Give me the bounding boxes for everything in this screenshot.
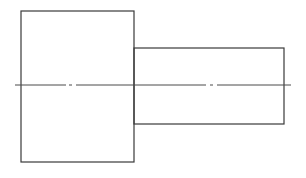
technical-drawing <box>0 0 306 178</box>
small-cylinder-shaft <box>134 48 284 124</box>
large-cylinder-body <box>21 11 134 162</box>
